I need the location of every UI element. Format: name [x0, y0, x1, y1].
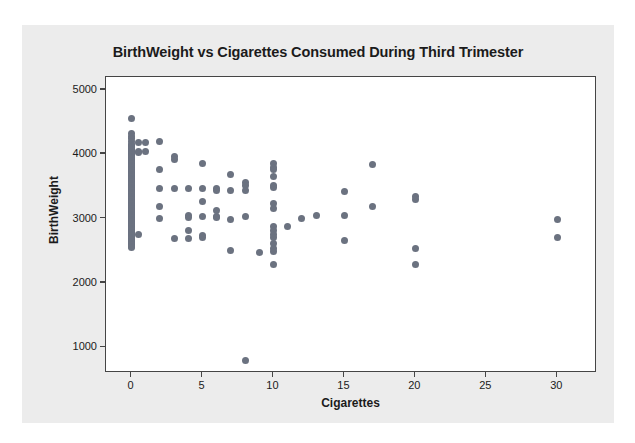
data-point [242, 213, 249, 220]
data-point [156, 138, 163, 145]
data-point [156, 203, 163, 210]
data-point [156, 185, 163, 192]
data-point [199, 185, 206, 192]
data-point [412, 196, 419, 203]
data-point [554, 216, 561, 223]
data-point [227, 171, 234, 178]
data-point [412, 261, 419, 268]
x-tick-mark [343, 372, 345, 377]
data-point [227, 247, 234, 254]
x-tick-label: 5 [198, 379, 204, 391]
y-tick-label: 3000 [57, 212, 97, 224]
data-point [270, 261, 277, 268]
x-tick-mark [556, 372, 558, 377]
x-tick-label: 10 [266, 379, 278, 391]
data-point [369, 161, 376, 168]
data-point [270, 184, 277, 191]
data-point [313, 212, 320, 219]
data-point [256, 249, 263, 256]
data-point [270, 173, 277, 180]
chart-panel: BirthWeight vs Cigarettes Consumed Durin… [22, 25, 614, 423]
y-tick-label: 2000 [57, 276, 97, 288]
data-point [199, 160, 206, 167]
data-point [128, 244, 135, 251]
data-point [341, 212, 348, 219]
x-tick-label: 0 [127, 379, 133, 391]
chart-title: BirthWeight vs Cigarettes Consumed Durin… [22, 44, 614, 60]
data-point [171, 185, 178, 192]
data-point [213, 187, 220, 194]
data-point [199, 198, 206, 205]
data-point [142, 148, 149, 155]
y-tick-label: 4000 [57, 147, 97, 159]
data-point [185, 227, 192, 234]
data-point [156, 166, 163, 173]
data-point [227, 187, 234, 194]
x-tick-label: 15 [337, 379, 349, 391]
data-point [135, 149, 142, 156]
y-axis-title: BirthWeight [47, 150, 61, 270]
data-point [135, 231, 142, 238]
x-tick-mark [485, 372, 487, 377]
x-tick-mark [130, 372, 132, 377]
data-point [341, 237, 348, 244]
data-point [270, 205, 277, 212]
data-point [369, 203, 376, 210]
data-point [156, 215, 163, 222]
data-point [199, 213, 206, 220]
y-tick-label: 1000 [57, 340, 97, 352]
data-point [185, 214, 192, 221]
scatter-plot-figure: BirthWeight vs Cigarettes Consumed Durin… [0, 0, 635, 443]
data-point [227, 216, 234, 223]
data-point [554, 234, 561, 241]
plot-area [105, 76, 596, 372]
y-tick-label: 5000 [57, 83, 97, 95]
data-point [242, 357, 249, 364]
data-point [298, 215, 305, 222]
data-point [412, 245, 419, 252]
data-point [142, 139, 149, 146]
data-point [270, 166, 277, 173]
x-tick-label: 30 [550, 379, 562, 391]
x-tick-label: 20 [408, 379, 420, 391]
x-tick-mark [272, 372, 274, 377]
data-point [284, 223, 291, 230]
data-point [213, 214, 220, 221]
data-point [341, 188, 348, 195]
data-point [199, 234, 206, 241]
x-tick-label: 25 [479, 379, 491, 391]
data-points-layer [106, 77, 595, 371]
x-axis-title: Cigarettes [105, 396, 596, 410]
data-point [185, 185, 192, 192]
data-point [185, 235, 192, 242]
data-point [171, 235, 178, 242]
data-point [135, 139, 142, 146]
x-tick-mark [201, 372, 203, 377]
x-tick-mark [414, 372, 416, 377]
data-point [270, 248, 277, 255]
data-point [128, 115, 135, 122]
data-point [242, 187, 249, 194]
data-point [171, 156, 178, 163]
